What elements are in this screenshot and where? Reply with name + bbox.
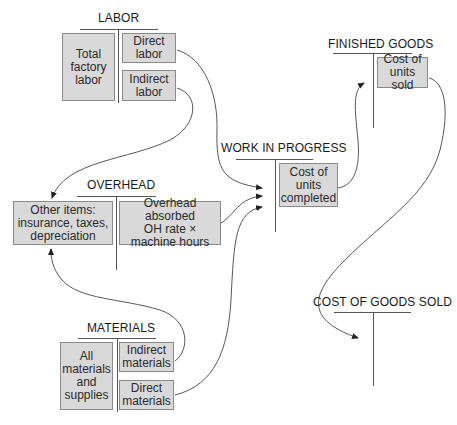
arrow-direct-labor-to-wip: [177, 50, 262, 188]
arrow-overhead-absorbed-to-wip: [221, 196, 262, 223]
arrow-indirect-labor-to-overhead: [52, 88, 193, 198]
arrow-direct-materials-to-wip: [175, 207, 262, 395]
arrow-finished-goods-to-cogs: [318, 78, 445, 338]
flow-arrows: [0, 0, 457, 425]
arrow-wip-to-finished-goods: [338, 83, 364, 188]
arrow-indirect-materials-to-overhead: [51, 249, 185, 361]
